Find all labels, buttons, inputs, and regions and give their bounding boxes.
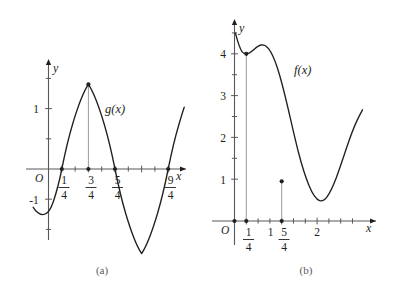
y-axis-arrow-b — [232, 19, 237, 25]
panel-b: y x O 1 2 3 4 1 4 1 5 4 2 f(x) (b) — [204, 0, 408, 292]
frac-numerator: 9 — [168, 174, 174, 186]
y-axis-label-b: y — [238, 21, 245, 35]
x-tick-label-b-1: 1 — [268, 226, 274, 238]
panel-a-axes — [26, 59, 186, 240]
x-axis-label-b: x — [365, 221, 372, 235]
panel-a: y x O 1 -1 1 4 3 4 5 4 9 — [0, 0, 204, 292]
panel-b-marked-points — [232, 52, 283, 223]
frac-numerator: 1 — [246, 226, 252, 238]
x-tick-label-a-1: 3 4 — [86, 174, 97, 201]
frac-denominator: 4 — [88, 189, 94, 201]
function-label-g: g(x) — [105, 102, 125, 116]
x-tick-label-b-2: 5 4 — [279, 226, 290, 253]
frac-denominator: 4 — [115, 189, 121, 201]
y-tick-label-b-4: 4 — [220, 48, 226, 60]
frac-numerator: 5 — [281, 226, 287, 238]
x-tick-label-a-0: 1 4 — [59, 174, 70, 201]
panel-b-plot: y x O 1 2 3 4 1 4 1 5 4 2 f(x) (b) — [204, 0, 408, 292]
figure-container: y x O 1 -1 1 4 3 4 5 4 9 — [0, 0, 408, 292]
y-tick-label-b-1: 1 — [220, 174, 226, 186]
panel-b-guide-lines — [246, 54, 281, 221]
y-axis-label-a: y — [52, 61, 59, 75]
y-axis-arrow-a — [46, 59, 51, 65]
origin-label-b: O — [221, 224, 230, 236]
x-tick-label-b-0: 1 4 — [243, 226, 254, 253]
origin-label-a: O — [35, 172, 44, 184]
panel-a-plot: y x O 1 -1 1 4 3 4 5 4 9 — [0, 0, 204, 292]
frac-numerator: 5 — [115, 174, 121, 186]
panel-caption-b: (b) — [300, 264, 313, 277]
frac-denominator: 4 — [281, 241, 287, 253]
curve-f — [235, 33, 362, 201]
x-tick-label-b-3: 2 — [314, 226, 320, 238]
function-label-f: f(x) — [294, 63, 311, 77]
frac-denominator: 4 — [246, 241, 252, 253]
frac-numerator: 3 — [88, 174, 94, 186]
x-tick-label-a-3: 9 4 — [165, 174, 176, 201]
x-axis-label-a: x — [175, 169, 182, 183]
frac-denominator: 4 — [61, 189, 67, 201]
panel-a-marked-points — [60, 82, 171, 171]
frac-numerator: 1 — [61, 174, 67, 186]
y-tick-label-a-neg1: -1 — [29, 194, 39, 206]
y-tick-label-a-1: 1 — [33, 103, 39, 115]
panel-caption-a: (a) — [96, 264, 109, 277]
y-tick-label-b-3: 3 — [220, 90, 226, 102]
frac-denominator: 4 — [168, 189, 174, 201]
y-tick-label-b-2: 2 — [220, 132, 226, 144]
